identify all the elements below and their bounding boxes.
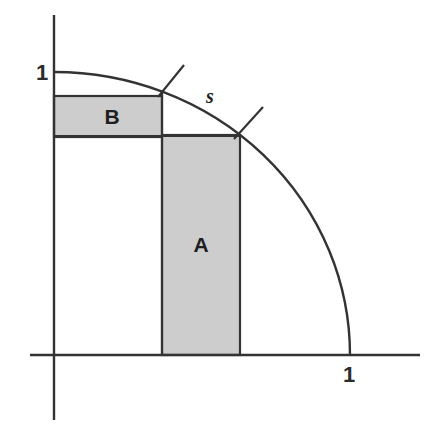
arc-segment-label: s xyxy=(205,85,214,107)
x-axis-unit-label: 1 xyxy=(343,362,355,387)
radial-tick-upper-icon xyxy=(158,65,184,97)
y-axis-unit-label: 1 xyxy=(36,60,48,85)
radial-tick-lower-icon xyxy=(234,107,263,139)
region-a-label: A xyxy=(193,233,208,256)
region-b-label: B xyxy=(104,105,119,128)
geometry-figure: 1 1 B A s xyxy=(0,0,435,435)
